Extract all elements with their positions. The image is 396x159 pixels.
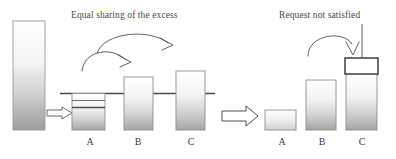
- unsatisfied-request-box: [345, 58, 378, 74]
- share-arrow-a-to-b: [82, 52, 131, 71]
- transition-arrow: [222, 106, 258, 126]
- bar-right-a: [265, 110, 296, 130]
- figure-canvas: Equal sharing of the excess Request not …: [0, 0, 396, 159]
- diagram-artwork: [0, 0, 396, 159]
- share-arrow-a-to-c: [97, 34, 173, 53]
- request-arrow: [308, 36, 359, 56]
- source-reservoir-bar: [13, 21, 45, 130]
- bar-right-c: [346, 73, 377, 130]
- feed-arrow-source-to-a: [47, 107, 72, 119]
- bar-right-b: [306, 80, 336, 130]
- bar-left-b: [124, 77, 153, 130]
- bar-left-c: [176, 71, 205, 130]
- bar-left-a: [72, 94, 105, 131]
